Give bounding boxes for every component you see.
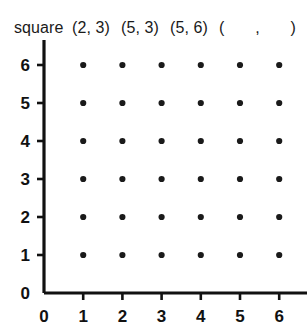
vertex-3-label: (5, 6)	[170, 16, 208, 40]
lattice-dot[interactable]	[159, 252, 165, 258]
blank-comma: ,	[255, 16, 259, 40]
lattice-dot[interactable]	[276, 176, 282, 182]
lattice-dot[interactable]	[119, 138, 125, 144]
axes-group	[39, 40, 308, 299]
y-axis-tick-label: 5	[21, 94, 30, 113]
lattice-dot[interactable]	[276, 62, 282, 68]
lattice-dot[interactable]	[159, 176, 165, 182]
lattice-dot[interactable]	[159, 62, 165, 68]
vertex-4-blank: ( , )	[219, 16, 296, 40]
lattice-dot[interactable]	[276, 138, 282, 144]
lattice-dot[interactable]	[237, 252, 243, 258]
lattice-dot[interactable]	[276, 214, 282, 220]
lattice-dot[interactable]	[80, 252, 86, 258]
x-axis-tick-label: 5	[235, 307, 244, 326]
lattice-dot[interactable]	[159, 138, 165, 144]
lattice-dot-grid	[80, 62, 282, 258]
tick-marks-group	[37, 65, 279, 300]
y-axis-tick-label: 3	[21, 170, 30, 189]
lattice-dot[interactable]	[198, 176, 204, 182]
lattice-dot[interactable]	[119, 214, 125, 220]
lattice-dot[interactable]	[80, 176, 86, 182]
y-axis-tick-labels: 0123456	[21, 56, 31, 303]
blank-open-paren: (	[219, 16, 224, 40]
lattice-dot[interactable]	[276, 252, 282, 258]
lattice-dot[interactable]	[198, 100, 204, 106]
lattice-dot[interactable]	[119, 62, 125, 68]
x-axis-tick-label: 4	[196, 307, 206, 326]
y-axis-tick-label: 0	[21, 284, 30, 303]
x-axis-tick-label: 0	[39, 307, 48, 326]
coordinate-plane: 0123456 0123456	[0, 40, 307, 330]
lattice-dot[interactable]	[237, 100, 243, 106]
vertex-1-label: (2, 3)	[72, 16, 110, 40]
x-axis-tick-label: 6	[274, 307, 283, 326]
x-axis-tick-labels: 0123456	[39, 307, 284, 326]
lattice-dot[interactable]	[80, 62, 86, 68]
shape-name-label: square	[14, 16, 64, 40]
lattice-dot[interactable]	[198, 138, 204, 144]
lattice-dot[interactable]	[198, 252, 204, 258]
blank-close-paren: )	[291, 16, 296, 40]
y-axis-tick-label: 2	[21, 208, 30, 227]
lattice-dot[interactable]	[80, 214, 86, 220]
x-axis-tick-label: 2	[118, 307, 127, 326]
y-axis-tick-label: 6	[21, 56, 30, 75]
lattice-dot[interactable]	[237, 62, 243, 68]
lattice-dot[interactable]	[80, 100, 86, 106]
lattice-dot[interactable]	[237, 214, 243, 220]
lattice-dot[interactable]	[119, 176, 125, 182]
lattice-dot[interactable]	[159, 100, 165, 106]
y-axis-tick-label: 4	[21, 132, 31, 151]
coordinate-plane-svg: 0123456 0123456	[0, 40, 307, 330]
lattice-dot[interactable]	[237, 176, 243, 182]
lattice-dot[interactable]	[119, 100, 125, 106]
lattice-dot[interactable]	[237, 138, 243, 144]
lattice-dot[interactable]	[80, 138, 86, 144]
y-axis-tick-label: 1	[21, 246, 30, 265]
x-axis-tick-label: 1	[78, 307, 87, 326]
lattice-dot[interactable]	[198, 62, 204, 68]
lattice-dot[interactable]	[159, 214, 165, 220]
x-axis-tick-label: 3	[157, 307, 166, 326]
lattice-dot[interactable]	[276, 100, 282, 106]
lattice-dot[interactable]	[119, 252, 125, 258]
problem-prompt: square (2, 3) (5, 3) (5, 6) ( , )	[0, 16, 307, 40]
lattice-dot[interactable]	[198, 214, 204, 220]
vertex-2-label: (5, 3)	[121, 16, 159, 40]
